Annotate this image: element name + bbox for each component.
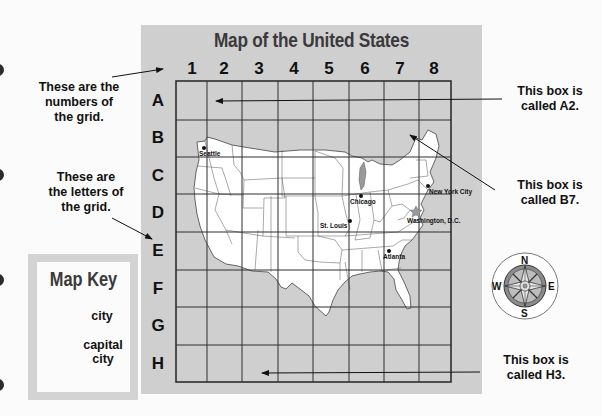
compass-w: W xyxy=(492,281,502,292)
numbers-arrow xyxy=(112,69,163,77)
st-louis-label: St. Louis xyxy=(320,222,348,229)
a2-note: This box is called A2. xyxy=(500,84,600,114)
letters-note: These are the letters of the grid. xyxy=(28,170,144,215)
key-city-label: city xyxy=(80,309,124,323)
map-grid xyxy=(176,81,451,382)
seattle-label: Seattle xyxy=(199,150,221,157)
numbers-note: These are the numbers of the grid. xyxy=(20,80,138,125)
chicago-label: Chicago xyxy=(350,198,376,206)
compass-e: E xyxy=(548,281,555,292)
st-louis-dot xyxy=(348,219,352,223)
atlanta-label: Atlanta xyxy=(383,253,405,260)
h3-note: This box is called H3. xyxy=(486,353,586,383)
us-land-outline xyxy=(194,130,439,316)
new-york-label: New York City xyxy=(429,188,472,196)
key-capital-label: capital city xyxy=(78,338,128,366)
h3-arrow xyxy=(262,372,480,373)
letters-arrow xyxy=(112,218,152,239)
b7-note: This box is called B7. xyxy=(500,178,600,208)
washington-label: Washington, D.C. xyxy=(407,217,461,225)
compass-rose-icon: N E S W xyxy=(492,253,558,319)
map-key-title: Map Key xyxy=(45,268,121,291)
compass-n: N xyxy=(521,255,528,266)
compass-s: S xyxy=(521,308,528,319)
a2-arrow xyxy=(216,99,502,101)
